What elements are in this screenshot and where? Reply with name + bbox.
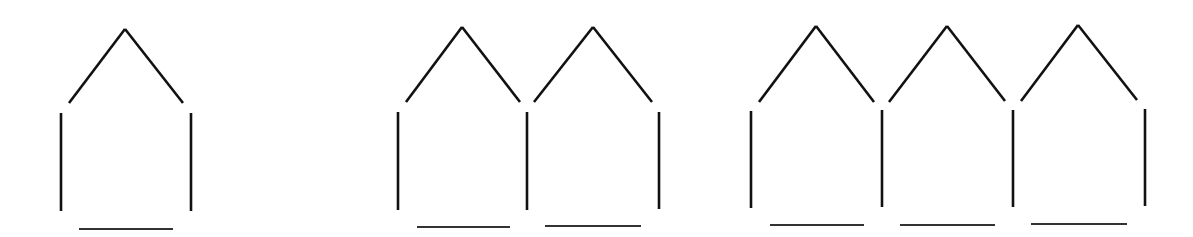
roof-right-stick <box>1078 25 1137 100</box>
two-houses-figure <box>398 27 659 227</box>
roof-left-stick <box>69 29 125 103</box>
roof-right-stick <box>816 26 874 102</box>
roof-right-stick <box>125 29 183 103</box>
three-houses-figure <box>751 25 1145 225</box>
roof-right-stick <box>947 26 1005 101</box>
roof-left-stick <box>1021 25 1078 101</box>
roof-right-stick <box>593 27 652 102</box>
roof-right-stick <box>462 27 520 102</box>
roof-left-stick <box>759 26 816 102</box>
matchstick-houses-diagram <box>0 0 1193 237</box>
roof-left-stick <box>534 27 593 102</box>
one-house-figure <box>61 29 191 229</box>
roof-left-stick <box>406 27 462 102</box>
roof-left-stick <box>889 26 947 102</box>
